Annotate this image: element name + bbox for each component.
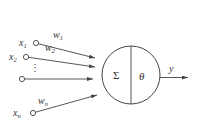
- threshold-symbol: θ: [139, 70, 145, 82]
- ellipsis-icon: ⋮: [30, 62, 40, 73]
- output: y: [160, 63, 188, 78]
- neuron: Σ θ: [102, 46, 160, 104]
- input-x1: x1 w1: [18, 29, 95, 58]
- input-label-x2: x2: [8, 51, 17, 63]
- input-node-icon: [30, 110, 35, 115]
- input-unlabeled: [19, 76, 93, 81]
- sum-symbol: Σ: [113, 69, 119, 81]
- input-node-icon: [19, 76, 24, 81]
- input-label-xn: xn: [12, 107, 21, 119]
- weight-label-w2: w2: [45, 42, 56, 54]
- perceptron-diagram: x1 w1 x2 w2 ⋮ xn wn Σ θ y: [0, 0, 204, 125]
- input-node-icon: [33, 40, 38, 45]
- weight-label-wn: wn: [38, 95, 48, 107]
- weight-label-w1: w1: [53, 29, 63, 41]
- input-node-icon: [23, 54, 28, 59]
- input-label-x1: x1: [18, 37, 27, 49]
- input-xn: xn wn: [12, 95, 97, 119]
- output-label-y: y: [168, 63, 174, 74]
